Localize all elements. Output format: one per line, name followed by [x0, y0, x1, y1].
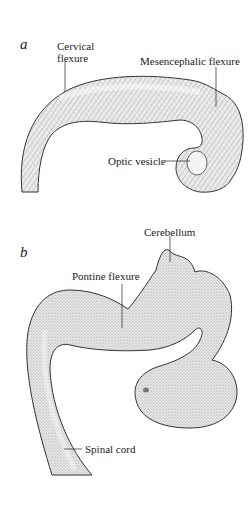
spinal-cord-label: Spinal cord — [85, 443, 135, 455]
lateral-pit — [143, 388, 149, 393]
optic-vesicle-label: Optic vesicle — [108, 155, 166, 167]
mesencephalic-flexure-label: Mesencephalic flexure — [140, 55, 240, 67]
optic-vesicle-shape — [187, 151, 207, 175]
illustration-canvas — [0, 0, 250, 515]
cerebellum-label: Cerebellum — [144, 226, 195, 238]
cervical-flexure-label-line1: Cervical — [57, 40, 94, 52]
panel-a-letter: a — [20, 36, 28, 53]
pontine-flexure-label: Pontine flexure — [72, 270, 140, 282]
panel-b-letter: b — [20, 244, 28, 261]
panel-a-neural-tube — [21, 62, 243, 192]
panel-b-tube-shape — [27, 250, 237, 475]
embryonic-brain-flexures-figure: a Cervical flexure Mesencephalic flexure… — [0, 0, 250, 515]
cervical-flexure-label-line2: flexure — [57, 52, 88, 64]
